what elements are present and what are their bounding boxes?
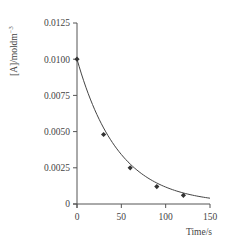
y-tick-label: 0.0125 (44, 18, 70, 28)
y-tick-label: 0 (65, 199, 70, 209)
data-point-marker (101, 132, 106, 137)
x-tick-label: 100 (159, 212, 174, 222)
data-point-marker (154, 184, 159, 189)
x-axis: 050100150 (73, 204, 217, 222)
chart: 00.00250.00500.00750.01000.0125 05010015… (0, 0, 227, 246)
y-axis-label: [A]/moldm−3 (7, 26, 19, 76)
x-tick-label: 50 (117, 212, 127, 222)
y-axis-label-text: [A]/moldm (9, 33, 19, 76)
x-tick-label: 150 (203, 212, 218, 222)
y-axis-label-superscript: −3 (7, 26, 14, 33)
x-tick-label: 0 (75, 212, 80, 222)
data-markers (74, 57, 186, 198)
decay-curve (77, 59, 210, 198)
y-tick-label: 0.0100 (44, 55, 70, 65)
y-tick-label: 0.0050 (44, 127, 70, 137)
y-tick-label: 0.0025 (44, 163, 70, 173)
y-tick-label: 0.0075 (44, 91, 70, 101)
x-axis-label: Time/s (186, 227, 212, 237)
y-axis: 00.00250.00500.00750.01000.0125 (44, 18, 77, 209)
data-point-marker (74, 57, 79, 62)
